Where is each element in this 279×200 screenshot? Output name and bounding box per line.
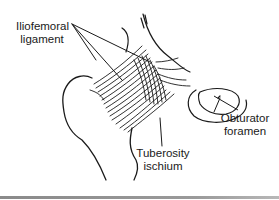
obturator-pointer-overlay — [0, 0, 279, 200]
bottom-border-line — [0, 196, 279, 199]
hip-anatomy-figure: Iliofemoral ligament Obturator foramen T… — [0, 0, 279, 200]
